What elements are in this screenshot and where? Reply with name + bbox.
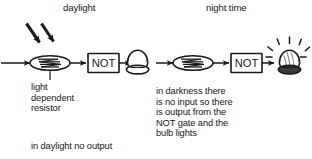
- lamp-off-icon: [126, 50, 148, 74]
- lamp-on-icon: [278, 50, 300, 74]
- ldr-icon: [30, 56, 70, 71]
- panel-daylight: NOT: [1, 24, 149, 81]
- not-gate-icon: NOT: [88, 54, 119, 73]
- circuit-diagram: NOT: [0, 0, 312, 159]
- not-gate-label-night: NOT: [235, 57, 259, 69]
- ldr-caption-label: light dependent resistor: [31, 82, 74, 114]
- ldr-icon-night: [173, 56, 213, 71]
- light-rays-icon: [27, 24, 54, 43]
- panel-title-daylight: daylight: [63, 3, 95, 14]
- not-gate-label: NOT: [92, 57, 116, 69]
- panel-night-time: NOT: [156, 37, 310, 74]
- night-time-note-label: in darkness there is no input so there i…: [156, 86, 233, 139]
- daylight-note-label: in daylight no output: [31, 141, 112, 152]
- panel-title-night-time: night time: [206, 3, 247, 14]
- not-gate-icon-night: NOT: [231, 54, 262, 73]
